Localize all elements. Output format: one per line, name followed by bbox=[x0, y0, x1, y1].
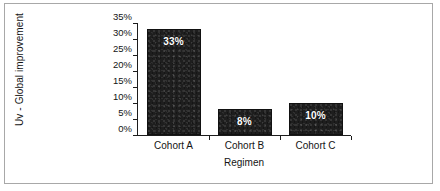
y-axis-tick-mark bbox=[133, 87, 138, 88]
bar-chart: Uv - Global improvement 0%5%10%15%20%25%… bbox=[5, 4, 434, 185]
y-axis-tick-label: 5% bbox=[118, 108, 132, 118]
y-axis-tick-mark bbox=[133, 55, 138, 56]
y-axis-tick-mark bbox=[133, 103, 138, 104]
y-axis-tick-mark bbox=[133, 23, 138, 24]
bar-value-label: 10% bbox=[289, 110, 343, 121]
bar-group: 33% bbox=[147, 23, 201, 135]
y-axis-tick-mark bbox=[133, 119, 138, 120]
x-axis-tick-mark bbox=[351, 136, 352, 140]
plot-region: 33%8%10% bbox=[138, 23, 351, 135]
bar-value-label: 8% bbox=[218, 116, 272, 127]
y-axis-tick-label: 30% bbox=[113, 28, 132, 38]
figure-frame: Uv - Global improvement 0%5%10%15%20%25%… bbox=[4, 3, 433, 184]
y-axis-tick-mark bbox=[133, 71, 138, 72]
y-axis-tick-label: 10% bbox=[113, 92, 132, 102]
y-axis-tick-label: 25% bbox=[113, 44, 132, 54]
x-axis-line bbox=[137, 135, 351, 136]
y-axis-tick-label: 35% bbox=[113, 12, 132, 22]
y-axis-tick-mark bbox=[133, 39, 138, 40]
bar-group: 8% bbox=[218, 23, 272, 135]
x-axis-category-label: Cohort B bbox=[209, 140, 280, 151]
bar-value-label: 33% bbox=[147, 36, 201, 47]
y-axis-tick-labels: 0%5%10%15%20%25%30%35% bbox=[101, 17, 132, 135]
y-axis-title: Uv - Global improvement bbox=[14, 5, 25, 135]
y-axis-tick-label: 15% bbox=[113, 76, 132, 86]
bar-group: 10% bbox=[289, 23, 343, 135]
x-axis-title: Regimen bbox=[137, 157, 351, 168]
x-axis-category-label: Cohort A bbox=[138, 140, 209, 151]
y-axis-tick-label: 20% bbox=[113, 60, 132, 70]
y-axis-tick-label: 0% bbox=[118, 124, 132, 134]
x-axis-category-label: Cohort C bbox=[280, 140, 351, 151]
y-axis-tick-mark bbox=[133, 135, 138, 136]
